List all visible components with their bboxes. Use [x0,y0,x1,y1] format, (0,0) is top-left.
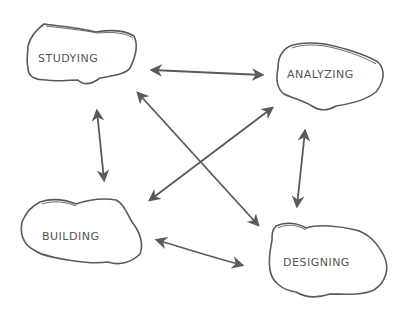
edge-studying-building [97,111,104,180]
diagram-canvas [0,0,416,311]
edge-analyzing-building [150,108,272,200]
edge-analyzing-designing [297,131,305,206]
edge-studying-designing [138,93,258,225]
node-label-building: Building [42,230,99,243]
node-label-designing: Designing [283,256,350,269]
node-label-analyzing: Analyzing [287,68,354,81]
edge-building-designing [157,240,242,265]
edge-studying-analyzing [152,70,262,75]
node-label-studying: Studying [38,52,98,65]
